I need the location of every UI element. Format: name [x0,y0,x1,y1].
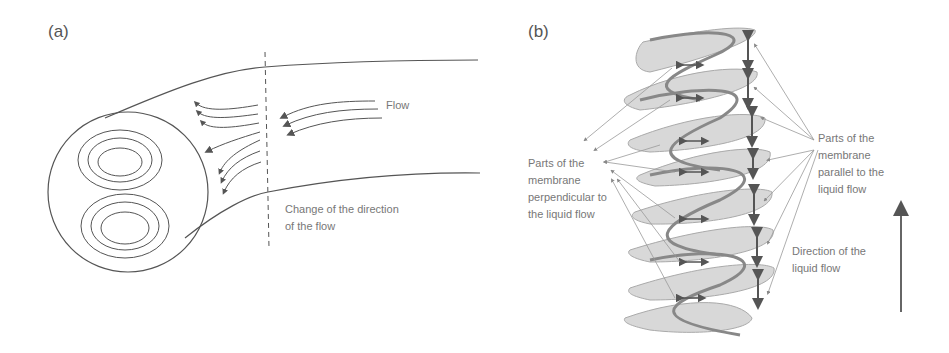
cross-section-circle [48,112,208,272]
flow-arrow-2 [286,109,378,125]
change-direction-label: Change of the direction of the flow [285,201,399,235]
upper-wall [105,60,478,118]
panel-b-label: (b) [528,22,549,42]
panel-a-drawing [0,0,949,353]
lower-vortex [81,194,169,258]
dashed-divider [265,52,269,248]
parallel-label: Parts of the membrane parallel to the li… [818,130,884,198]
upper-vortex [78,130,162,190]
direction-label: Direction of the liquid flow [792,243,866,277]
flow-label: Flow [386,97,409,114]
helical-membrane [624,28,774,335]
perpendicular-label: Parts of the membrane perpendicular to t… [528,155,607,223]
flow-arrow-3 [290,118,382,134]
